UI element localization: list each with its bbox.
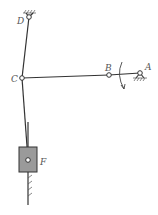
joint-D (27, 15, 32, 20)
link-BA (109, 73, 140, 75)
label-F: F (39, 157, 47, 167)
linkage-diagram: D C B A F (0, 0, 158, 215)
joint-C (20, 76, 25, 81)
label-B: B (104, 63, 112, 73)
joint-F (26, 158, 31, 163)
label-C: C (11, 74, 18, 84)
rotation-arrow-icon (119, 62, 125, 89)
joint-A (138, 71, 143, 76)
link-CB (22, 75, 109, 78)
label-A: A (144, 62, 152, 72)
joint-B (107, 73, 112, 78)
link-DC (22, 17, 29, 78)
label-D: D (16, 16, 24, 26)
